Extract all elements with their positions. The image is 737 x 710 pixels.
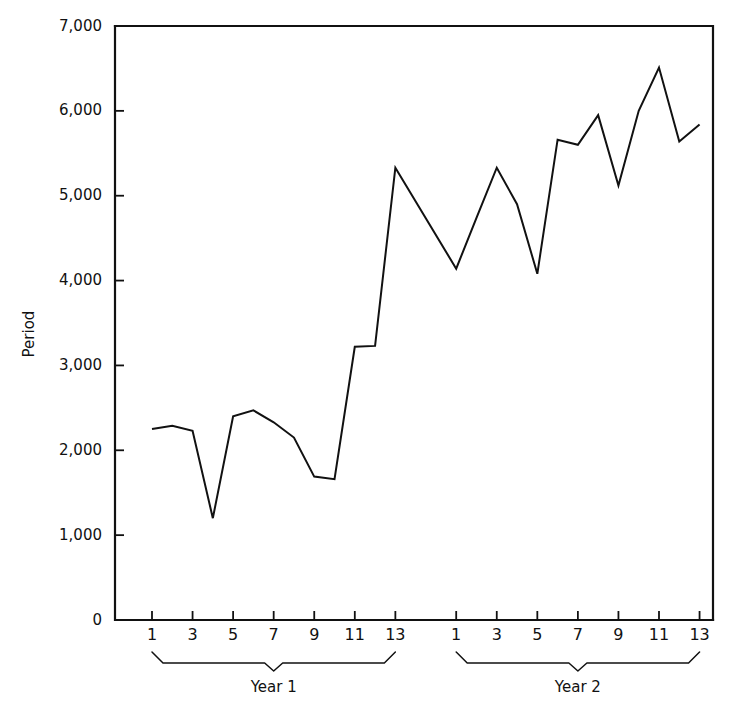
data-line-period [152,68,700,519]
y-tick-label: 2,000 [59,441,102,459]
x-tick-label: 9 [309,625,319,644]
line-chart: 7,0006,0005,0004,0003,0002,0001,0000 135… [0,0,737,710]
group-brackets: Year 1Year 2 [152,652,700,696]
y-tick-label: 5,000 [59,186,102,204]
chart-container: 7,0006,0005,0004,0003,0002,0001,0000 135… [0,0,737,710]
y-tick-label: 0 [92,611,102,629]
x-tick-label: 1 [147,625,157,644]
x-tick-label: 5 [532,625,542,644]
x-tick-label: 13 [689,625,709,644]
data-series-group [152,68,700,519]
y-tick-label: 1,000 [59,526,102,544]
x-tick-label: 1 [451,625,461,644]
x-tick-label: 11 [649,625,669,644]
group-bracket [456,652,699,671]
y-tick-label: 3,000 [59,356,102,374]
y-tick-label: 6,000 [59,101,102,119]
y-tick-label: 7,000 [59,17,102,35]
frame-top-right [115,26,713,620]
x-tick-label: 9 [613,625,623,644]
x-tick-label: 7 [269,625,279,644]
plot-frame [115,26,713,620]
group-label: Year 1 [250,678,297,696]
group-bracket [152,652,395,671]
x-tick-label: 3 [187,625,197,644]
y-tick-label: 4,000 [59,271,102,289]
x-tick-label: 13 [385,625,405,644]
y-axis-title: Period [20,311,38,358]
x-tick-label: 11 [345,625,365,644]
x-tick-label: 7 [573,625,583,644]
x-axis-ticks: 135791113135791113 [147,611,710,644]
frame-left-bottom [115,26,713,620]
group-label: Year 2 [554,678,601,696]
x-tick-label: 5 [228,625,238,644]
x-tick-label: 3 [492,625,502,644]
